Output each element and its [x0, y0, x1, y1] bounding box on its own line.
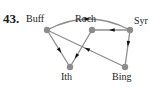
figure-canvas: 43. Buff Roch Syr Ith Bing [0, 0, 149, 87]
node-label-roch: Roch [75, 14, 96, 24]
arrowhead-bing-buff [84, 46, 91, 52]
node-buff [44, 27, 50, 33]
node-roch [89, 27, 95, 33]
node-label-buff: Buff [26, 14, 44, 24]
arrowhead-syr-roch [109, 28, 115, 32]
edge-syr-bing [125, 30, 130, 67]
node-ith [67, 64, 73, 70]
node-bing [122, 64, 128, 70]
node-label-ith: Ith [61, 72, 72, 82]
node-label-bing: Bing [112, 72, 131, 82]
node-syr [127, 27, 133, 33]
edge-layer [47, 19, 130, 67]
problem-number: 43. [3, 11, 19, 27]
node-label-syr: Syr [134, 16, 148, 26]
